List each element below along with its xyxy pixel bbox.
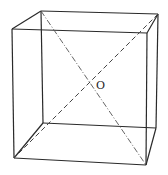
cube-diagram: O [0,0,168,175]
diagonal-1 [41,11,146,165]
center-label: O [96,79,105,92]
front-face [12,29,147,165]
diagonal-2 [14,14,158,158]
connecting-edges [12,11,158,165]
back-face [41,11,158,128]
